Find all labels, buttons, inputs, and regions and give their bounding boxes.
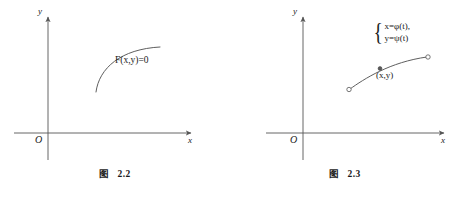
caption-prefix: 图 — [329, 168, 340, 179]
left-brace: { — [374, 19, 383, 45]
x-axis-label: x — [441, 136, 445, 145]
y-axis-label: y — [293, 7, 297, 16]
curve-start-open-point — [347, 87, 351, 91]
parametric-equations: x=φ(t), y=ψ(t) — [384, 22, 410, 43]
implicit-curve-label: F(x,y)=0 — [115, 56, 149, 66]
figure-page: y x O F(x,y)=0 图 2.2 — [0, 0, 460, 197]
curve-end-open-point — [426, 55, 430, 59]
parametric-system: { x=φ(t), y=ψ(t) — [372, 19, 410, 45]
figure-2-3-plot — [230, 0, 460, 165]
figure-2-2-caption: 图 2.2 — [0, 166, 230, 180]
figure-2-2: y x O F(x,y)=0 图 2.2 — [0, 0, 230, 197]
figure-2-3: y x O { x=φ(t), y=ψ(t) (x,y) 图 2.3 — [230, 0, 460, 197]
marked-point-label: (x,y) — [376, 71, 393, 80]
origin-label: O — [290, 135, 297, 145]
caption-number: 2.3 — [347, 169, 360, 179]
y-axis-label: y — [38, 7, 42, 16]
caption-prefix: 图 — [99, 168, 110, 179]
x-axis-label: x — [188, 136, 192, 145]
parametric-equation-y: y=ψ(t) — [384, 34, 410, 43]
caption-number: 2.2 — [117, 169, 130, 179]
figure-2-3-caption: 图 2.3 — [230, 166, 460, 180]
origin-label: O — [35, 135, 42, 145]
parametric-equation-x: x=φ(t), — [384, 22, 410, 31]
implicit-curve — [96, 47, 160, 92]
